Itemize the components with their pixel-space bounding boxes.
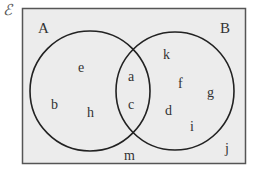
element-f: f bbox=[178, 77, 183, 91]
element-g: g bbox=[207, 86, 214, 100]
element-c: c bbox=[128, 98, 134, 112]
set-a-label: A bbox=[38, 21, 49, 35]
element-e: e bbox=[78, 61, 84, 75]
element-h: h bbox=[87, 106, 94, 120]
universal-set-symbol: ℰ bbox=[3, 1, 12, 19]
element-d: d bbox=[165, 104, 172, 118]
element-i: i bbox=[190, 120, 194, 134]
element-a: a bbox=[128, 70, 134, 84]
element-k: k bbox=[163, 48, 170, 62]
element-b: b bbox=[51, 98, 58, 112]
element-j: j bbox=[225, 142, 229, 156]
element-m: m bbox=[124, 149, 135, 163]
set-b-label: B bbox=[220, 21, 230, 35]
